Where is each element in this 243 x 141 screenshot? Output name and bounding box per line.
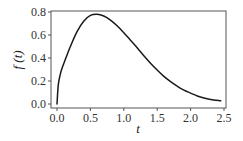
y-tick-label: 0.4: [31, 51, 46, 65]
x-tick-label: 0.5: [83, 111, 98, 125]
y-tick-label: 0.6: [31, 28, 46, 42]
y-tick-label: 0.0: [31, 97, 46, 111]
x-tick-label: 2.5: [217, 111, 232, 125]
x-tick-label: 1.5: [150, 111, 165, 125]
y-axis-label: f (t): [10, 50, 25, 69]
x-tick-label: 0.0: [50, 111, 65, 125]
x-axis-ticks: 0.00.51.01.52.02.5: [50, 108, 232, 125]
x-tick-label: 2.0: [183, 111, 198, 125]
y-tick-label: 0.2: [31, 74, 46, 88]
x-axis-label: t: [136, 121, 140, 136]
y-axis-ticks: 0.00.20.40.60.8: [31, 5, 51, 111]
line-chart: 0.00.51.01.52.02.5 0.00.20.40.60.8 t f (…: [0, 0, 243, 141]
axes-frame: [51, 11, 226, 108]
x-tick-label: 1.0: [116, 111, 131, 125]
y-tick-label: 0.8: [31, 5, 46, 19]
plot-area: [51, 11, 226, 108]
